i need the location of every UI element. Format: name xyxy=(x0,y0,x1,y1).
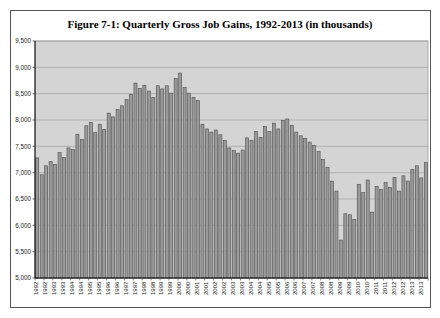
bar-2007-Q2 xyxy=(308,142,311,278)
x-tick-label: 2004 xyxy=(256,281,263,295)
x-tick-label: 1994 xyxy=(77,281,84,295)
bar-2000-Q2 xyxy=(183,87,186,278)
bar-2005-Q2 xyxy=(272,123,275,278)
bar-2012-Q2 xyxy=(397,191,400,278)
y-tick-label: 9,000 xyxy=(15,64,31,71)
x-tick-label: 2013 xyxy=(417,281,424,295)
x-tick-label: 2000 xyxy=(175,281,182,295)
x-tick-label: 2002 xyxy=(220,281,227,295)
bar-2003-Q3 xyxy=(241,150,244,278)
bar-2008-Q3 xyxy=(330,181,333,278)
bar-1994-Q2 xyxy=(76,134,79,278)
bar-2001-Q2 xyxy=(201,124,204,278)
bar-2011-Q2 xyxy=(380,190,383,278)
bar-1995-Q3 xyxy=(98,124,101,278)
bar-2010-Q2 xyxy=(362,193,365,278)
bar-2004-Q1 xyxy=(250,141,253,278)
x-tick-label: 2010 xyxy=(354,281,361,295)
y-tick-label: 8,000 xyxy=(15,116,31,123)
bar-2002-Q4 xyxy=(228,148,231,278)
x-tick-label: 1997 xyxy=(131,281,138,295)
bar-1993-Q2 xyxy=(58,153,61,278)
bar-chart: Figure 7-1: Quarterly Gross Job Gains, 1… xyxy=(0,0,440,318)
x-tick-label: 2003 xyxy=(238,281,245,295)
bar-2013-Q2 xyxy=(415,166,418,278)
x-tick-label: 1993 xyxy=(50,281,57,295)
bar-2000-Q3 xyxy=(188,93,191,278)
bar-1996-Q3 xyxy=(116,109,119,278)
y-tick-label: 5,500 xyxy=(15,248,31,255)
x-tick-label: 2006 xyxy=(291,281,298,295)
x-tick-label: 2012 xyxy=(390,281,397,295)
chart-title: Figure 7-1: Quarterly Gross Job Gains, 1… xyxy=(68,18,373,31)
bar-2003-Q4 xyxy=(246,138,249,278)
bar-1993-Q3 xyxy=(63,157,66,278)
x-tick-label: 1999 xyxy=(166,281,173,295)
bar-2002-Q1 xyxy=(214,130,217,278)
bar-2010-Q3 xyxy=(366,180,369,278)
bar-2012-Q3 xyxy=(402,176,405,278)
bar-2001-Q3 xyxy=(205,129,208,278)
bar-2008-Q1 xyxy=(322,160,325,279)
bar-2009-Q3 xyxy=(348,215,351,278)
bar-2009-Q1 xyxy=(339,240,342,278)
bar-2001-Q4 xyxy=(210,132,213,278)
y-tick-label: 7,000 xyxy=(15,169,31,176)
x-tick-label: 2007 xyxy=(300,281,307,295)
bar-2007-Q1 xyxy=(304,138,307,278)
bar-1992-Q3 xyxy=(45,166,48,278)
bar-1996-Q2 xyxy=(112,117,115,278)
x-tick-label: 1996 xyxy=(104,281,111,295)
bar-2010-Q4 xyxy=(371,212,374,278)
bar-2010-Q1 xyxy=(357,184,360,278)
x-tick-label: 1999 xyxy=(157,281,164,295)
bar-1993-Q4 xyxy=(67,148,70,278)
bar-1998-Q4 xyxy=(156,86,159,278)
bar-2013-Q1 xyxy=(411,170,414,278)
x-tick-label: 2011 xyxy=(372,281,379,295)
bar-1997-Q1 xyxy=(125,99,128,278)
x-tick-label: 2008 xyxy=(318,281,325,295)
x-tick-label: 2003 xyxy=(229,281,236,295)
x-tick-label: 1995 xyxy=(86,281,93,295)
bar-2009-Q2 xyxy=(344,214,347,278)
bar-2011-Q1 xyxy=(375,186,378,278)
bar-2008-Q4 xyxy=(335,191,338,278)
x-tick-label: 2002 xyxy=(211,281,218,295)
bar-1998-Q3 xyxy=(152,97,155,278)
bar-1998-Q2 xyxy=(147,91,150,278)
x-tick-label: 2011 xyxy=(381,281,388,295)
bar-1997-Q2 xyxy=(130,94,133,278)
bar-2012-Q4 xyxy=(406,181,409,278)
bar-2005-Q3 xyxy=(277,129,280,278)
bar-1999-Q2 xyxy=(165,86,168,278)
y-tick-label: 6,500 xyxy=(15,195,31,202)
x-tick-label: 2001 xyxy=(202,281,209,295)
bar-2006-Q1 xyxy=(286,119,289,278)
bar-1995-Q2 xyxy=(94,133,97,278)
bar-1995-Q4 xyxy=(103,129,106,278)
x-tick-label: 1997 xyxy=(122,281,129,295)
y-tick-label: 5,000 xyxy=(15,274,31,281)
bar-2008-Q2 xyxy=(326,167,329,278)
bar-1999-Q3 xyxy=(170,93,173,278)
bar-1995-Q1 xyxy=(89,123,92,278)
bar-2012-Q1 xyxy=(393,177,396,278)
bar-2006-Q3 xyxy=(295,132,298,278)
y-tick-label: 8,500 xyxy=(15,90,31,97)
bar-1994-Q1 xyxy=(71,149,74,278)
bar-2013-Q3 xyxy=(420,178,423,278)
plot-area: 5,0005,5006,0006,5007,0007,5008,0008,500… xyxy=(15,37,428,295)
bar-1992-Q4 xyxy=(49,162,52,278)
figure-container: Figure 7-1: Quarterly Gross Job Gains, 1… xyxy=(0,0,440,318)
bar-2003-Q1 xyxy=(232,151,235,278)
bar-2005-Q1 xyxy=(268,132,271,278)
x-tick-label: 2007 xyxy=(309,281,316,295)
y-tick-label: 7,500 xyxy=(15,143,31,150)
bar-2004-Q2 xyxy=(255,132,258,278)
bar-2001-Q1 xyxy=(196,101,199,278)
bar-1994-Q3 xyxy=(80,139,83,278)
x-tick-label: 1994 xyxy=(68,281,75,295)
x-tick-label: 1995 xyxy=(95,281,102,295)
x-tick-label: 1992 xyxy=(41,281,48,295)
